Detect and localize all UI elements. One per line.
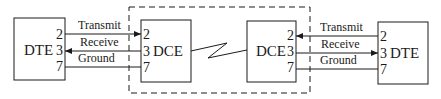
right-link-transmit: Transmit <box>296 20 378 36</box>
right-ground-label: Ground <box>320 53 357 67</box>
left-dte-pin-3: 3 <box>56 43 63 58</box>
left-dte-pin-2: 2 <box>56 27 63 42</box>
left-dce-pin-3: 3 <box>143 44 150 59</box>
right-dte-pin-2: 2 <box>380 29 387 44</box>
left-ground-label: Ground <box>78 51 115 65</box>
left-transmit-label: Transmit <box>78 18 122 32</box>
right-dte-box: 2 3 DTE 7 <box>378 22 428 84</box>
right-dce-pin-3: 3 <box>287 44 294 59</box>
left-dte-label: DTE <box>24 42 53 58</box>
left-dce-box: 2 3 DCE 7 <box>141 20 191 82</box>
right-dce-label: DCE <box>256 43 286 59</box>
right-dte-pin-7: 7 <box>380 62 387 77</box>
dte-dce-diagram: DTE 2 3 7 2 3 DCE 7 DCE 2 3 7 2 3 DTE 7 … <box>0 0 441 99</box>
right-dte-label: DTE <box>390 45 419 61</box>
left-link-receive: Receive <box>65 35 141 51</box>
left-link-transmit: Transmit <box>65 18 141 34</box>
right-transmit-label: Transmit <box>320 20 364 34</box>
right-link-ground: Ground <box>296 53 378 69</box>
right-dce-pin-7: 7 <box>287 60 294 75</box>
left-dte-pin-7: 7 <box>56 59 63 74</box>
left-dce-pin-7: 7 <box>143 60 150 75</box>
left-dce-pin-2: 2 <box>143 27 150 42</box>
left-dte-box: DTE 2 3 7 <box>14 18 65 80</box>
left-link-ground: Ground <box>65 51 141 67</box>
right-dte-pin-3: 3 <box>380 46 387 61</box>
right-receive-label: Receive <box>321 37 360 51</box>
right-link-receive: Receive <box>296 37 378 53</box>
left-dce-label: DCE <box>153 43 183 59</box>
right-dce-pin-2: 2 <box>287 28 294 43</box>
lightning-link-icon <box>191 43 247 58</box>
right-dce-box: DCE 2 3 7 <box>247 21 296 82</box>
left-receive-label: Receive <box>80 35 119 49</box>
